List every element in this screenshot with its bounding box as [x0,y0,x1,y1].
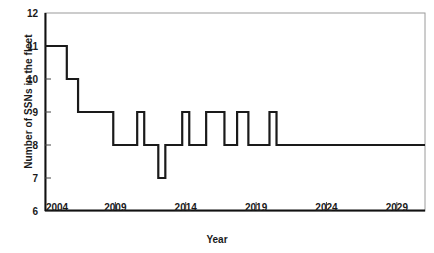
line-chart-plot [0,0,434,253]
x-tick-label: 2014 [175,202,197,213]
y-tick-label: 10 [16,74,38,85]
y-tick-label: 12 [16,8,38,19]
x-tick-label: 2004 [46,202,68,213]
x-axis-title: Year [0,234,434,245]
x-tick-label: 2024 [315,202,337,213]
y-tick-label: 11 [16,41,38,52]
y-tick-label: 9 [16,107,38,118]
x-tick-label: 2019 [245,202,267,213]
x-tick-label: 2009 [104,202,126,213]
y-tick-label: 7 [16,173,38,184]
y-tick-label: 6 [16,206,38,217]
x-tick-label: 2029 [386,202,408,213]
chart-container: Number of SSNs in the fleet Year 2004200… [0,0,434,253]
y-tick-label: 8 [16,140,38,151]
